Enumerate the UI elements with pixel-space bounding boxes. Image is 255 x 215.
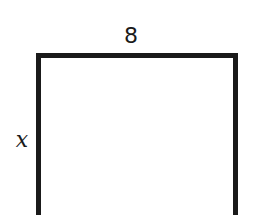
width-label: 8 xyxy=(118,22,144,50)
diagram-canvas: 8 x xyxy=(0,0,255,215)
rectangle-shape xyxy=(36,53,238,215)
height-label: x xyxy=(12,126,32,154)
